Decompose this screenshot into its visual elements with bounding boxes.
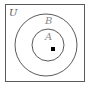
point-marker — [51, 47, 55, 51]
venn-diagram: U B A — [0, 0, 89, 86]
set-a-label: A — [44, 31, 52, 42]
universe-label: U — [9, 7, 18, 18]
set-b-label: B — [44, 15, 52, 26]
